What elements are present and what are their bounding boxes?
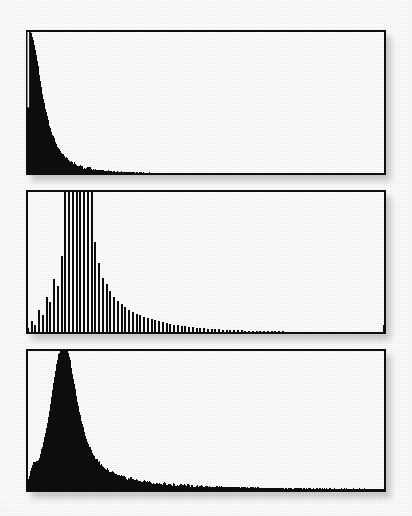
panel-middle-plot [26,190,386,334]
panel-middle [26,190,386,334]
panel-top [26,30,386,175]
panel-top-plot [26,30,386,175]
figure-plate [0,0,412,516]
panel-bottom [26,349,386,492]
panel-bottom-plot [26,349,386,492]
